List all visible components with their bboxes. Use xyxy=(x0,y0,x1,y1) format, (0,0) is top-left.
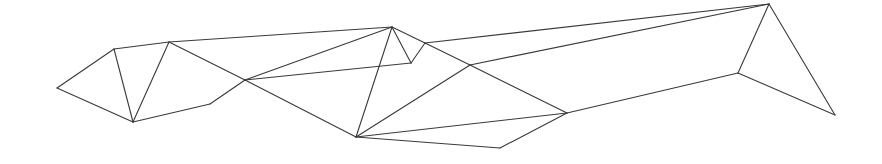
edge-I-K xyxy=(425,43,470,65)
edge-L-O xyxy=(567,73,738,113)
edge-J-M xyxy=(356,137,500,148)
edge-C-G xyxy=(169,27,392,42)
edge-C-F xyxy=(169,42,245,80)
edge-O-P xyxy=(738,73,835,115)
edge-K-N xyxy=(470,4,769,65)
edge-G-I xyxy=(392,27,425,43)
edge-G-H xyxy=(392,27,411,63)
line-mesh-diagram xyxy=(0,0,882,164)
edge-C-D xyxy=(133,42,169,122)
edge-A-D xyxy=(57,88,133,122)
edge-group xyxy=(57,4,835,148)
edge-M-L xyxy=(500,113,567,148)
edge-G-J xyxy=(356,27,392,137)
edge-D-E xyxy=(133,104,210,122)
edge-K-L xyxy=(470,65,567,113)
edge-F-J xyxy=(245,80,356,137)
edge-I-N xyxy=(425,4,769,43)
edge-B-C xyxy=(114,42,169,49)
edge-A-B xyxy=(57,49,114,88)
edge-N-P xyxy=(769,4,835,115)
edge-H-I xyxy=(411,43,425,63)
edge-O-N xyxy=(738,4,769,73)
edge-B-D xyxy=(114,49,133,122)
edge-E-F xyxy=(210,80,245,104)
